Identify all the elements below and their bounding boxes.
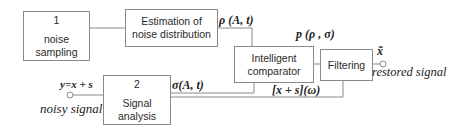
- comparator-block: Intelligent comparator: [234, 46, 314, 83]
- output-symbol-label: x̃: [377, 44, 383, 59]
- input-equation-label: y=x + s: [60, 78, 93, 90]
- block-label: Filtering: [328, 59, 365, 72]
- signal-analysis-block: 2 Signal analysis: [103, 75, 171, 125]
- estimation-block: Estimation of noise distribution: [125, 9, 218, 47]
- rho-label: ρ (A, t): [219, 13, 254, 28]
- input-name-label: noisy signal: [40, 101, 102, 117]
- block-label-line1: Intelligent: [252, 52, 297, 65]
- block-label-line2: comparator: [247, 65, 300, 78]
- sigma-label: σ(A, t): [172, 78, 204, 93]
- block-label: noise sampling: [24, 33, 89, 59]
- block-label: Signal analysis: [104, 97, 170, 123]
- noise-sampling-block: 1 noise sampling: [23, 11, 90, 61]
- filtering-block: Filtering: [320, 49, 373, 81]
- block-number: 2: [134, 78, 140, 91]
- block-label-line2: noise distribution: [132, 28, 211, 41]
- block-diagram: 1 noise sampling Estimation of noise dis…: [0, 0, 464, 134]
- p-label: p (ρ , σ): [296, 27, 335, 42]
- output-name-label: restored signal: [372, 65, 446, 80]
- block-label-line1: Estimation of: [141, 15, 202, 28]
- spectrum-label: [x + s](ω): [272, 83, 320, 98]
- block-number: 1: [54, 14, 60, 27]
